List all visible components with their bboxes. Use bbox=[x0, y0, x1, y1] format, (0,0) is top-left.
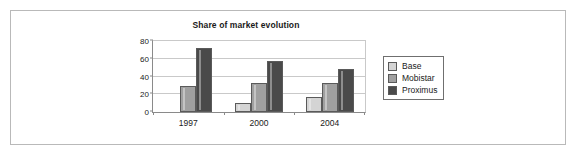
bar-group bbox=[294, 41, 365, 112]
chart-title: Share of market evolution bbox=[131, 20, 361, 30]
document-frame: Share of market evolution 020406080 1997… bbox=[10, 10, 566, 145]
legend-item-base: Base bbox=[388, 60, 437, 72]
bar-mobistar-2000 bbox=[251, 83, 267, 112]
y-tick-label: 60 bbox=[140, 54, 149, 63]
bar-base-2004 bbox=[306, 97, 322, 112]
legend-label: Mobistar bbox=[402, 74, 435, 83]
bar-highlight bbox=[254, 85, 256, 110]
x-tick-mark bbox=[224, 112, 225, 115]
bar-proximus-2004 bbox=[338, 69, 354, 112]
x-tick-label: 1997 bbox=[179, 118, 198, 128]
bar-highlight bbox=[199, 50, 201, 110]
x-tick-mark bbox=[294, 112, 295, 115]
bar-proximus-1997 bbox=[196, 48, 212, 112]
legend-swatch-base bbox=[388, 62, 397, 71]
bar-highlight bbox=[341, 71, 343, 110]
legend-item-mobistar: Mobistar bbox=[388, 72, 437, 84]
legend-item-proximus: Proximus bbox=[388, 84, 437, 96]
bar-base-2000 bbox=[235, 103, 251, 112]
bar-mobistar-1997 bbox=[180, 86, 196, 112]
x-tick-label: 2000 bbox=[250, 118, 269, 128]
chart-legend: BaseMobistarProximus bbox=[383, 56, 444, 100]
legend-label: Proximus bbox=[402, 86, 437, 95]
x-tick-mark bbox=[364, 112, 365, 115]
y-tick-label: 0 bbox=[145, 108, 149, 117]
bar-group bbox=[153, 41, 224, 112]
bar-highlight bbox=[309, 99, 311, 110]
bar-highlight bbox=[238, 105, 240, 110]
x-tick-label: 2004 bbox=[320, 118, 339, 128]
bar-highlight bbox=[183, 88, 185, 110]
y-tick-label: 80 bbox=[140, 37, 149, 46]
bar-proximus-2000 bbox=[267, 61, 283, 112]
x-tick-mark bbox=[153, 112, 154, 115]
bar-group bbox=[224, 41, 295, 112]
bar-mobistar-2004 bbox=[322, 83, 338, 112]
y-tick-label: 40 bbox=[140, 72, 149, 81]
legend-swatch-mobistar bbox=[388, 74, 397, 83]
legend-label: Base bbox=[402, 62, 421, 71]
y-tick-label: 20 bbox=[140, 90, 149, 99]
bar-highlight bbox=[325, 85, 327, 110]
bar-chart: Share of market evolution 020406080 1997… bbox=[11, 11, 567, 146]
plot-area: 020406080 199720002004 bbox=[152, 40, 366, 113]
screenshot-root: Share of market evolution 020406080 1997… bbox=[0, 0, 578, 157]
bar-highlight bbox=[270, 63, 272, 110]
legend-swatch-proximus bbox=[388, 86, 397, 95]
